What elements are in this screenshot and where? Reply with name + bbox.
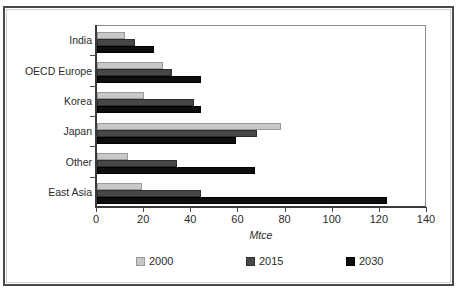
bar-korea-2030 [97, 106, 201, 113]
bar-japan-2030 [97, 137, 236, 144]
bar-korea-2000 [97, 92, 144, 99]
bar-east-asia-2030 [97, 197, 387, 204]
x-axis-tick-label: 20 [123, 213, 163, 225]
legend-swatch-2000 [136, 257, 145, 266]
x-axis-tick [379, 207, 380, 212]
category-axis-line [95, 206, 426, 208]
category-label: OECD Europe [4, 65, 92, 77]
category-tick [90, 116, 96, 117]
legend-item-2000[interactable]: 2000 [136, 255, 173, 267]
category-label: Japan [4, 125, 92, 137]
x-axis-tick-label: 100 [312, 213, 352, 225]
category-tick [90, 177, 96, 178]
bar-east-asia-2000 [97, 183, 142, 190]
bar-other-2030 [97, 167, 255, 174]
bar-oecd-europe-2030 [97, 76, 201, 83]
bar-japan-2015 [97, 130, 257, 137]
bar-oecd-europe-2000 [97, 62, 163, 69]
bar-group [97, 32, 425, 53]
x-axis-tick-label: 120 [359, 213, 399, 225]
bar-india-2015 [97, 39, 135, 46]
category-tick [90, 146, 96, 147]
category-tick [90, 55, 96, 56]
x-axis-tick [96, 207, 97, 212]
x-axis-tick [332, 207, 333, 212]
legend-label: 2030 [359, 255, 383, 267]
legend-item-2015[interactable]: 2015 [246, 255, 283, 267]
legend-swatch-2015 [246, 257, 255, 266]
category-tick [90, 86, 96, 87]
x-axis-tick [190, 207, 191, 212]
chart-title-partial [0, 0, 457, 3]
x-axis-tick-label: 60 [217, 213, 257, 225]
plot-area [96, 25, 426, 207]
category-label: Other [4, 156, 92, 168]
legend-label: 2000 [149, 255, 173, 267]
category-label: Korea [4, 95, 92, 107]
bar-india-2030 [97, 46, 154, 53]
bar-group [97, 153, 425, 174]
x-axis-title: Mtce [96, 229, 426, 241]
bar-group [97, 183, 425, 204]
x-axis-tick [143, 207, 144, 212]
category-axis-labels: IndiaOECD EuropeKoreaJapanOtherEast Asia [0, 25, 92, 207]
x-axis-tick [237, 207, 238, 212]
category-label: India [4, 34, 92, 46]
x-axis-tick [285, 207, 286, 212]
legend-label: 2015 [259, 255, 283, 267]
bar-group [97, 123, 425, 144]
chart-legend: 200020152030 [96, 255, 426, 273]
x-axis-tick [426, 207, 427, 212]
x-axis-tick-label: 140 [406, 213, 446, 225]
bar-east-asia-2015 [97, 190, 201, 197]
category-label: East Asia [4, 186, 92, 198]
bar-group [97, 62, 425, 83]
bar-group [97, 92, 425, 113]
bar-japan-2000 [97, 123, 281, 130]
legend-item-2030[interactable]: 2030 [346, 255, 383, 267]
x-axis-tick-label: 0 [76, 213, 116, 225]
x-axis-tick-label: 40 [170, 213, 210, 225]
bar-other-2000 [97, 153, 128, 160]
figure-container: IndiaOECD EuropeKoreaJapanOtherEast Asia… [0, 0, 457, 289]
bar-india-2000 [97, 32, 125, 39]
bar-oecd-europe-2015 [97, 69, 172, 76]
bar-other-2015 [97, 160, 177, 167]
legend-swatch-2030 [346, 257, 355, 266]
x-axis-tick-label: 80 [265, 213, 305, 225]
bar-korea-2015 [97, 99, 194, 106]
